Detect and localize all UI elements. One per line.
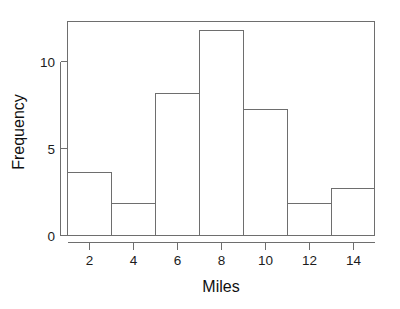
y-axis-title: Frequency [10, 94, 27, 170]
x-tick-label-12: 12 [302, 253, 317, 268]
bar-bin-11-13 [288, 204, 332, 236]
x-tick-label-2: 2 [86, 253, 94, 268]
x-axis-ticks [90, 243, 354, 250]
histogram-chart-svg: 0 5 10 2 4 6 8 10 12 14 Miles Frequency [0, 0, 400, 309]
x-tick-label-14: 14 [346, 253, 362, 268]
x-tick-label-6: 6 [174, 253, 182, 268]
bar-bin-7-9 [200, 31, 244, 236]
bar-bin-9-11 [244, 109, 288, 235]
bar-bin-1-3 [68, 172, 112, 235]
x-tick-label-8: 8 [218, 253, 226, 268]
x-axis-title: Miles [202, 278, 239, 295]
y-axis-ticks [61, 62, 68, 236]
bars-group [68, 31, 375, 236]
bar-bin-3-5 [112, 204, 156, 236]
bar-bin-5-7 [156, 94, 200, 236]
x-tick-label-4: 4 [130, 253, 138, 268]
y-tick-label-10: 10 [40, 55, 55, 70]
y-tick-label-5: 5 [47, 142, 55, 157]
bar-bin-13-15 [332, 188, 375, 235]
y-tick-label-0: 0 [47, 229, 55, 244]
histogram-figure: 0 5 10 2 4 6 8 10 12 14 Miles Frequency [0, 0, 400, 309]
x-tick-label-10: 10 [258, 253, 273, 268]
